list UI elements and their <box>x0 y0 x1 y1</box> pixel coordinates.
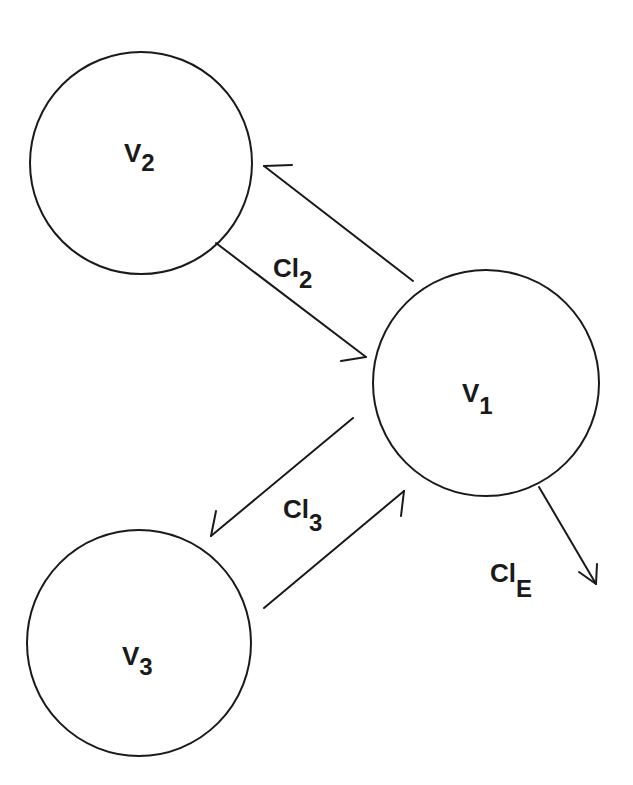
compartment-v1-label: V1 <box>462 378 493 419</box>
compartment-diagram: V2 V1 V3 Cl2 Cl3 <box>0 0 633 785</box>
arrow-v1-to-v3 <box>211 418 353 536</box>
compartment-v3: V3 <box>27 530 251 756</box>
compartment-v3-label: V3 <box>122 641 153 680</box>
compartment-v2-label: V2 <box>124 138 155 176</box>
edge-label-cl3: Cl3 <box>283 494 322 536</box>
edge-label-cle: ClE <box>490 558 532 602</box>
compartment-v1-circle <box>373 270 599 496</box>
arrow-elimination <box>539 487 597 584</box>
compartment-v1: V1 <box>373 270 599 496</box>
compartment-v2: V2 <box>30 52 252 274</box>
edge-label-cl2: Cl2 <box>273 253 312 293</box>
